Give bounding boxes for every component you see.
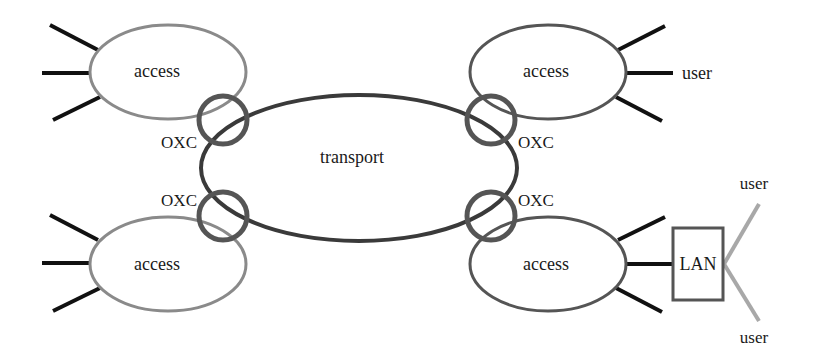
oxc-label-top-right: OXC xyxy=(518,133,554,152)
user-label-lan-top: user xyxy=(740,174,769,193)
user-label-lan-bottom: user xyxy=(740,328,769,347)
oxc-label-top-left: OXC xyxy=(161,133,197,152)
network-diagram: access access access access transport OX… xyxy=(0,0,816,359)
access-label-bottom-right: access xyxy=(523,254,569,274)
oxc-label-bottom-left: OXC xyxy=(161,191,197,210)
user-label-top-right: user xyxy=(682,63,712,83)
lan-label: LAN xyxy=(680,254,717,274)
access-label-bottom-left: access xyxy=(134,254,180,274)
access-label-top-left: access xyxy=(134,61,180,81)
access-label-top-right: access xyxy=(523,61,569,81)
lan-user-links xyxy=(724,204,759,321)
access-links-bottom-right xyxy=(616,217,672,312)
transport-label: transport xyxy=(320,147,384,167)
oxc-label-bottom-right: OXC xyxy=(518,191,554,210)
